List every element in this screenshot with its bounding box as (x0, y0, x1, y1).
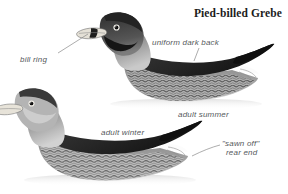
annotation-adult-winter: adult winter (101, 128, 144, 137)
leader-uniform-dark-back (194, 48, 199, 61)
grebe-illustration (0, 0, 288, 194)
annotation-sawn-off-line2: rear end (222, 148, 259, 157)
annotation-sawn-off-line1: "sawn off" (222, 139, 259, 148)
annotation-bill-ring: bill ring (20, 55, 47, 64)
leader-sawn-off (192, 145, 220, 156)
annotation-adult-summer: adult summer (178, 110, 229, 119)
illustration-plate: Pied-billed Grebe bill ring uniform dark… (0, 0, 288, 194)
annotation-sawn-off-rear-end: "sawn off" rear end (222, 139, 259, 157)
page-title: Pied-billed Grebe (194, 7, 282, 19)
leader-bill-ring (58, 34, 88, 53)
annotation-uniform-dark-back: uniform dark back (152, 38, 219, 47)
figure-adult-summer (77, 12, 275, 109)
